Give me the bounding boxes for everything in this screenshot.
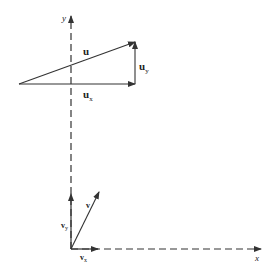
vector-v <box>71 192 99 249</box>
vector-u-x-label: ux <box>83 88 93 103</box>
vector-u <box>19 42 135 84</box>
vector-u-y-label: uy <box>139 60 149 75</box>
vector-components-diagram: y x u uy ux v vy vx <box>0 0 274 272</box>
vector-u-label: u <box>83 45 89 57</box>
vector-v-y-label: vy <box>61 221 68 231</box>
x-axis-label: x <box>254 253 259 263</box>
vector-v-label: v <box>86 201 90 210</box>
vector-v-x-label: vx <box>80 253 87 263</box>
y-axis-label: y <box>61 13 66 23</box>
